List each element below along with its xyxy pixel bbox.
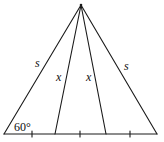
right-cevian [81,5,106,134]
triangle-diagram: s x x s 60° [0,0,164,142]
label-left-cevian: x [55,70,62,84]
label-base-angle: 60° [14,120,31,134]
label-right-cevian: x [85,70,92,84]
left-side [4,5,81,134]
label-left-side: s [35,56,40,70]
apex-point [80,4,83,7]
right-side [81,5,157,134]
label-right-side: s [124,59,129,73]
